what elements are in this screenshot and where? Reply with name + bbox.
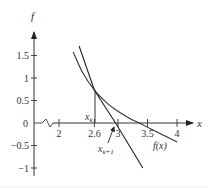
x-tick-label: 2.6 [88, 128, 101, 139]
xk-label: xk [84, 111, 93, 124]
fx-label: f(x) [153, 140, 168, 152]
y-tick-label: −1 [18, 163, 29, 174]
newton-method-chart: f 1.510.50−0.5−1 x 22.633.54 xk xk+1 f(x… [0, 0, 208, 188]
y-tick-label: 1 [24, 73, 29, 84]
x-tick-label: 4 [175, 128, 180, 139]
y-tick-label: 0.5 [17, 95, 30, 106]
x-tick-label: 2 [57, 128, 62, 139]
x-ticks: 22.633.54 [57, 119, 180, 139]
y-axis: f [31, 10, 36, 176]
xk1-label: xk+1 [97, 143, 114, 156]
x-axis-label: x [196, 117, 202, 129]
y-tick-label: −0.5 [11, 140, 29, 151]
y-axis-label: f [31, 10, 36, 22]
axis-break-icon [34, 119, 53, 127]
y-ticks: 1.510.50−0.5−1 [11, 50, 37, 174]
y-tick-label: 0 [23, 118, 28, 129]
y-tick-label: 1.5 [17, 50, 30, 61]
xk1-arrow-icon [108, 127, 114, 143]
